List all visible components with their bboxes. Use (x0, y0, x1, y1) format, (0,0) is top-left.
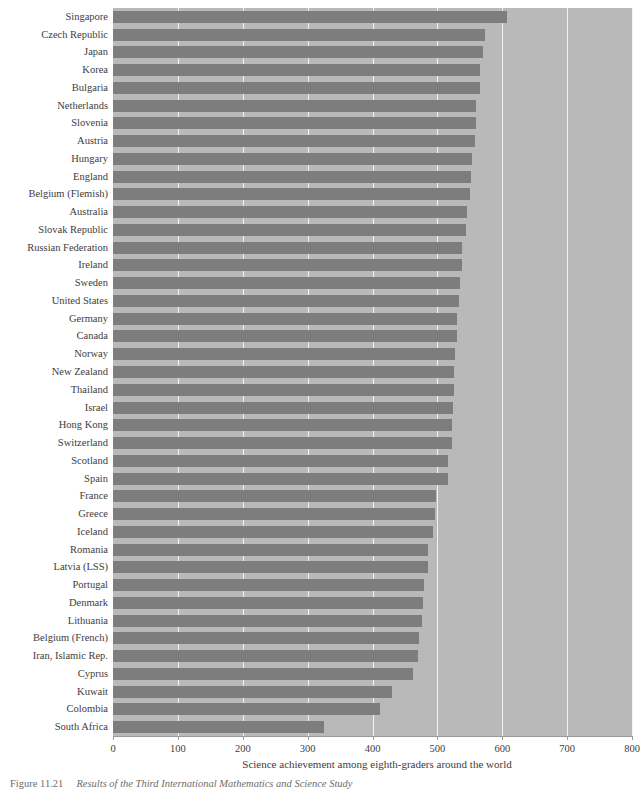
x-tick-label: 500 (417, 742, 457, 755)
bar (113, 153, 472, 165)
y-axis-label: Greece (0, 508, 108, 520)
bar-row (113, 64, 632, 76)
bar (113, 455, 448, 467)
y-axis-label: United States (0, 295, 108, 307)
figure-caption-number: Figure 11.21 (10, 778, 63, 789)
y-axis-label: Hong Kong (0, 419, 108, 431)
bar (113, 721, 324, 733)
bar-row (113, 117, 632, 129)
y-axis-label: Scotland (0, 455, 108, 467)
bar-row (113, 632, 632, 644)
y-axis-label: Norway (0, 348, 108, 360)
bar (113, 11, 507, 23)
y-axis-label: Austria (0, 135, 108, 147)
figure-caption: Figure 11.21 Results of the Third Intern… (10, 777, 630, 790)
y-axis-label: Belgium (Flemish) (0, 188, 108, 200)
y-axis-label: Slovak Republic (0, 224, 108, 236)
y-axis-label: Iceland (0, 526, 108, 538)
y-axis-label: Spain (0, 473, 108, 485)
bar (113, 615, 422, 627)
y-axis-label: Denmark (0, 597, 108, 609)
bar (113, 402, 453, 414)
bar (113, 100, 476, 112)
y-axis-label: Romania (0, 544, 108, 556)
bar (113, 188, 470, 200)
bar-row (113, 295, 632, 307)
bar (113, 206, 467, 218)
bar (113, 366, 454, 378)
y-axis-label: France (0, 490, 108, 502)
bar-row (113, 206, 632, 218)
x-axis-title-text: Science achievement among eighth-graders… (242, 758, 511, 770)
bar-row (113, 473, 632, 485)
y-axis-label: Netherlands (0, 100, 108, 112)
bar-row (113, 153, 632, 165)
bar (113, 544, 428, 556)
y-axis-label: South Africa (0, 721, 108, 733)
bar-row (113, 82, 632, 94)
bar (113, 313, 457, 325)
y-axis-label: Russian Federation (0, 242, 108, 254)
bar (113, 259, 462, 271)
bar-row (113, 668, 632, 680)
x-tick-label: 100 (158, 742, 198, 755)
bar (113, 650, 418, 662)
x-tick-100 (178, 736, 179, 740)
y-axis-label: Hungary (0, 153, 108, 165)
bar (113, 295, 459, 307)
bar-row (113, 224, 632, 236)
x-tick-label: 0 (93, 742, 133, 755)
x-tick-600 (502, 736, 503, 740)
x-tick-label: 400 (353, 742, 393, 755)
y-axis-label: Germany (0, 313, 108, 325)
bar-row (113, 597, 632, 609)
bar-row (113, 703, 632, 715)
bar (113, 703, 380, 715)
y-axis-label: Ireland (0, 259, 108, 271)
y-axis-label: Portugal (0, 579, 108, 591)
bar-row (113, 615, 632, 627)
y-axis-label: Bulgaria (0, 82, 108, 94)
bar (113, 437, 452, 449)
x-tick-label: 600 (482, 742, 522, 755)
y-axis-label: Thailand (0, 384, 108, 396)
bar-row (113, 171, 632, 183)
x-axis-title: Science achievement among eighth-graders… (0, 758, 642, 770)
bar (113, 668, 413, 680)
bar-row (113, 455, 632, 467)
y-axis-label: Korea (0, 64, 108, 76)
bar (113, 277, 460, 289)
bar-row (113, 366, 632, 378)
bar (113, 224, 466, 236)
bar (113, 384, 454, 396)
bar-row (113, 508, 632, 520)
x-tick-label: 200 (223, 742, 263, 755)
bar-row (113, 437, 632, 449)
y-axis-label: Canada (0, 330, 108, 342)
bar-row (113, 29, 632, 41)
bar-row (113, 384, 632, 396)
bar-row (113, 11, 632, 23)
bar (113, 473, 448, 485)
y-axis-label: Lithuania (0, 615, 108, 627)
bar-row (113, 490, 632, 502)
x-tick-500 (437, 736, 438, 740)
bar (113, 632, 419, 644)
y-axis-label: Singapore (0, 11, 108, 23)
bar (113, 135, 475, 147)
bar (113, 242, 462, 254)
bar (113, 419, 452, 431)
bar-row (113, 330, 632, 342)
chart-plot-area (113, 8, 632, 736)
y-axis-label: Iran, Islamic Rep. (0, 650, 108, 662)
y-axis-label: Kuwait (0, 686, 108, 698)
figure-caption-text: Results of the Third International Mathe… (76, 778, 352, 789)
x-tick-800 (632, 736, 633, 740)
bar-row (113, 242, 632, 254)
y-axis-label: Slovenia (0, 117, 108, 129)
x-tick-label: 300 (288, 742, 328, 755)
y-axis-label: New Zealand (0, 366, 108, 378)
bar-row (113, 135, 632, 147)
bar-row (113, 277, 632, 289)
